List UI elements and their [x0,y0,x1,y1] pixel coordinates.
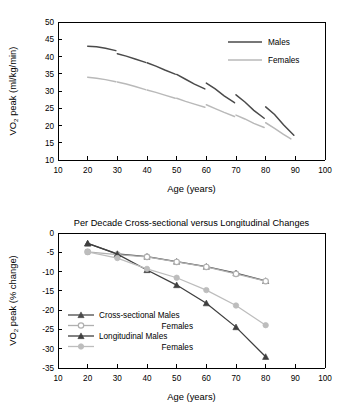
series-marker-cross-sectional-females [204,264,209,269]
x-axis-title: Age (years) [167,391,215,402]
y-tick-label: 40 [45,53,55,62]
x-tick-label: 40 [142,166,152,175]
x-tick-label: 100 [318,374,332,383]
x-tick-label: 70 [231,374,241,383]
y-tick-label: 35 [45,70,55,79]
x-tick-label: 90 [291,166,301,175]
series-segment-females [177,98,205,107]
x-tick-label: 10 [53,374,63,383]
chart-vo2peak-percent-change: 1020304050607080901000-5-10-15-20-25-30-… [0,205,337,415]
series-marker-longitudinal-females [85,249,90,254]
y-tick-label: -15 [42,287,54,296]
legend-marker-3 [78,344,83,349]
series-marker-longitudinal-males [85,240,91,246]
series-segment-females [88,77,116,81]
series-marker-longitudinal-females [115,255,120,260]
series-segment-females [147,90,175,98]
series-segment-males [266,107,294,135]
series-marker-longitudinal-males [203,300,209,306]
series-marker-longitudinal-females [204,287,209,292]
series-marker-cross-sectional-females [263,279,268,284]
series-segment-males [177,74,205,88]
y-tick-label: -10 [42,268,54,277]
y-tick-label: 0 [49,229,54,238]
y-axis-title: VO2 peak (ml/kg/min) [7,47,19,136]
x-tick-label: 50 [172,374,182,383]
series-segment-males [147,63,175,74]
x-tick-label: 100 [318,166,332,175]
x-tick-label: 60 [202,374,212,383]
legend-label-males: Males [268,38,290,47]
y-tick-label: -30 [42,345,54,354]
bottom-chart-svg: 1020304050607080901000-5-10-15-20-25-30-… [0,205,337,415]
y-axis-title-text: VO2 peak (ml/kg/min) [7,47,19,136]
series-segment-females [266,123,291,139]
chart-title: Per Decade Cross-sectional versus Longit… [74,218,310,228]
x-tick-label: 20 [83,166,93,175]
series-segment-females [236,115,264,127]
series-marker-longitudinal-females [263,322,268,327]
series-marker-cross-sectional-females [144,254,149,259]
chart-vo2peak-absolute: 102030405060708090100101520253035404550A… [0,0,337,205]
legend-label-3: Females [162,343,193,352]
x-tick-label: 10 [53,166,63,175]
y-axis-title: VO2 peak (% change) [7,255,19,345]
y-tick-label: 45 [45,35,55,44]
series-segment-males [206,83,234,103]
x-axis-title: Age (years) [167,183,215,194]
legend-label-1: Females [162,322,193,331]
y-tick-label: -35 [42,364,54,373]
legend-label-females: Females [268,56,299,65]
x-tick-label: 30 [113,166,123,175]
series-marker-longitudinal-females [174,275,179,280]
legend-label-2: Longitudinal Males [99,332,167,341]
x-tick-label: 50 [172,166,182,175]
x-tick-label: 60 [202,166,212,175]
x-tick-label: 90 [291,374,301,383]
series-segment-males [236,95,264,118]
legend-marker-1 [78,323,83,328]
legend-label-0: Cross-sectional Males [99,311,180,320]
series-marker-cross-sectional-females [174,259,179,264]
x-tick-label: 40 [142,374,152,383]
x-tick-label: 30 [113,374,123,383]
series-segment-males [117,54,145,63]
y-tick-label: 15 [45,139,55,148]
y-tick-label: 20 [45,122,55,131]
y-tick-label: 30 [45,87,55,96]
x-tick-label: 20 [83,374,93,383]
y-tick-label: -25 [42,325,54,334]
top-chart-svg: 102030405060708090100101520253035404550A… [0,0,337,205]
y-tick-label: 25 [45,104,55,113]
series-segment-females [117,82,145,90]
y-tick-label: 50 [45,18,55,27]
series-marker-longitudinal-males [174,282,180,288]
y-tick-label: -5 [47,248,55,257]
series-segment-males [88,46,116,50]
y-tick-label: -20 [42,306,54,315]
series-marker-longitudinal-females [233,303,238,308]
series-marker-longitudinal-females [144,266,149,271]
x-tick-label: 80 [261,374,271,383]
series-marker-cross-sectional-females [233,271,238,276]
series-segment-females [206,105,234,117]
figure-container: 102030405060708090100101520253035404550A… [0,0,337,415]
x-tick-label: 70 [231,166,241,175]
x-tick-label: 80 [261,166,271,175]
y-tick-label: 10 [45,156,55,165]
y-axis-title-text: VO2 peak (% change) [7,255,19,345]
